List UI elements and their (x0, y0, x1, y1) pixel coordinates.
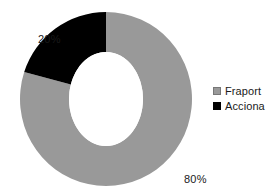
slice-label-fraport: 80% (184, 174, 207, 185)
donut-plot-area: 20% 80% (18, 10, 194, 188)
donut-chart: 20% 80% Fraport Acciona (0, 0, 280, 196)
legend-swatch-icon-fraport (213, 87, 221, 95)
legend-label-acciona: Acciona (225, 101, 265, 112)
legend-swatch-icon-acciona (213, 102, 221, 110)
legend-item-fraport[interactable]: Fraport (213, 84, 279, 98)
legend-label-fraport: Fraport (225, 86, 261, 97)
legend-item-acciona[interactable]: Acciona (213, 99, 279, 113)
chart-legend: Fraport Acciona (213, 84, 279, 114)
slice-label-acciona: 20% (38, 34, 61, 45)
donut-center-hole (69, 52, 143, 146)
